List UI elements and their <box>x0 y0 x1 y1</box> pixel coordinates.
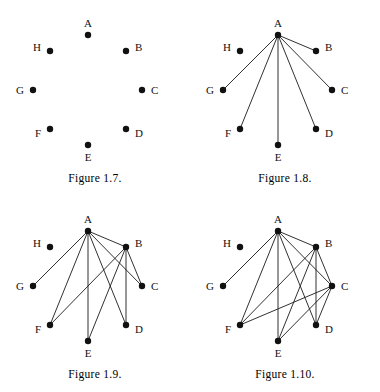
graph-vertex-C <box>329 283 335 289</box>
graph-edge-AF <box>50 231 88 325</box>
graph-vertex-C <box>329 87 335 93</box>
vertex-label-F: F <box>225 127 231 139</box>
graph-vertex-C <box>139 283 145 289</box>
graph-edge-AD <box>278 35 316 129</box>
vertex-label-C: C <box>341 280 348 292</box>
graph-vertex-G <box>220 283 226 289</box>
graph-edge-AD <box>278 231 316 325</box>
figure-fig-1-7: ABCDEFGHFigure 1.7. <box>0 0 190 196</box>
graph-canvas-fig-1-8: ABCDEFGH <box>190 0 380 170</box>
figure-sheet: ABCDEFGHFigure 1.7.ABCDEFGHFigure 1.8.AB… <box>0 0 380 392</box>
graph-vertex-G <box>30 87 36 93</box>
vertex-label-A: A <box>84 213 92 225</box>
figure-fig-1-10: ABCDEFGHFigure 1.10. <box>190 196 380 392</box>
vertex-label-F: F <box>225 323 231 335</box>
graph-vertex-B <box>123 48 129 54</box>
graph-vertex-E <box>85 338 91 344</box>
figure-caption-fig-1-9: Figure 1.9. <box>0 368 190 380</box>
vertex-label-H: H <box>223 41 231 53</box>
vertex-label-F: F <box>35 323 41 335</box>
graph-vertex-D <box>313 322 319 328</box>
graph-vertex-F <box>237 322 243 328</box>
graph-vertex-F <box>47 322 53 328</box>
vertex-label-D: D <box>325 127 333 139</box>
graph-vertex-H <box>47 48 53 54</box>
vertex-group: ABCDEFGH <box>206 17 348 163</box>
figure-fig-1-9: ABCDEFGHFigure 1.9. <box>0 196 190 392</box>
graph-vertex-A <box>85 228 91 234</box>
vertex-label-G: G <box>206 280 214 292</box>
graph-edge-AG <box>223 231 278 286</box>
graph-edge-AC <box>278 35 332 90</box>
graph-vertex-D <box>123 322 129 328</box>
graph-vertex-G <box>220 87 226 93</box>
graph-edge-AG <box>33 231 88 286</box>
graph-edge-BC <box>126 247 142 286</box>
graph-edge-BC <box>316 247 332 286</box>
vertex-label-H: H <box>33 41 41 53</box>
figure-caption-fig-1-7: Figure 1.7. <box>0 172 190 184</box>
vertex-label-H: H <box>33 237 41 249</box>
vertex-label-D: D <box>325 323 333 335</box>
graph-edge-BE <box>278 247 316 341</box>
graph-vertex-F <box>237 126 243 132</box>
vertex-label-A: A <box>274 213 282 225</box>
graph-vertex-B <box>123 244 129 250</box>
graph-vertex-D <box>123 126 129 132</box>
vertex-label-A: A <box>84 17 92 29</box>
graph-edge-AG <box>223 35 278 90</box>
graph-vertex-D <box>313 126 319 132</box>
graph-vertex-E <box>85 142 91 148</box>
graph-edge-AD <box>88 231 126 325</box>
vertex-label-G: G <box>16 280 24 292</box>
vertex-label-E: E <box>275 151 282 163</box>
vertex-label-B: B <box>135 41 142 53</box>
vertex-label-D: D <box>135 127 143 139</box>
vertex-label-C: C <box>341 84 348 96</box>
figure-fig-1-8: ABCDEFGHFigure 1.8. <box>190 0 380 196</box>
graph-vertex-A <box>85 32 91 38</box>
vertex-label-E: E <box>85 151 92 163</box>
vertex-label-H: H <box>223 237 231 249</box>
vertex-label-B: B <box>325 41 332 53</box>
vertex-label-E: E <box>275 347 282 359</box>
vertex-label-E: E <box>85 347 92 359</box>
vertex-group: ABCDEFGH <box>16 17 158 163</box>
graph-vertex-H <box>237 244 243 250</box>
vertex-label-B: B <box>325 237 332 249</box>
vertex-label-A: A <box>274 17 282 29</box>
graph-vertex-F <box>47 126 53 132</box>
figure-caption-fig-1-8: Figure 1.8. <box>190 172 380 184</box>
graph-canvas-fig-1-9: ABCDEFGH <box>0 196 190 366</box>
graph-canvas-fig-1-10: ABCDEFGH <box>190 196 380 366</box>
vertex-label-B: B <box>135 237 142 249</box>
vertex-label-G: G <box>16 84 24 96</box>
graph-edge-BE <box>88 247 126 341</box>
graph-vertex-H <box>47 244 53 250</box>
graph-vertex-C <box>139 87 145 93</box>
graph-vertex-A <box>275 32 281 38</box>
vertex-label-C: C <box>151 84 158 96</box>
vertex-group: ABCDEFGH <box>206 213 348 359</box>
graph-vertex-E <box>275 338 281 344</box>
graph-edge-CE <box>278 286 332 341</box>
vertex-label-C: C <box>151 280 158 292</box>
graph-edge-AF <box>240 35 278 129</box>
vertex-label-G: G <box>206 84 214 96</box>
graph-vertex-E <box>275 142 281 148</box>
graph-vertex-H <box>237 48 243 54</box>
graph-vertex-B <box>313 48 319 54</box>
graph-vertex-G <box>30 283 36 289</box>
graph-vertex-B <box>313 244 319 250</box>
graph-vertex-A <box>275 228 281 234</box>
vertex-group: ABCDEFGH <box>16 213 158 359</box>
graph-canvas-fig-1-7: ABCDEFGH <box>0 0 190 170</box>
figure-caption-fig-1-10: Figure 1.10. <box>190 368 380 380</box>
vertex-label-D: D <box>135 323 143 335</box>
vertex-label-F: F <box>35 127 41 139</box>
